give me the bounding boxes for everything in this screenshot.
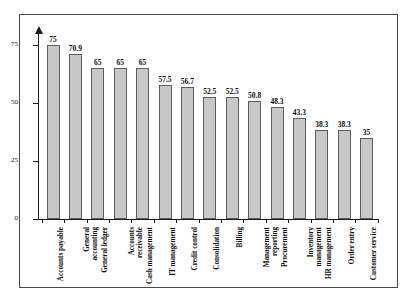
x-axis-tick-mark <box>109 219 110 223</box>
bar <box>47 45 60 219</box>
bar <box>91 68 104 219</box>
bar-value-label: 75 <box>39 35 67 44</box>
bar-value-label: 56.7 <box>173 77 201 86</box>
x-axis-tick-mark <box>378 219 379 223</box>
x-axis-tick-mark <box>87 219 88 223</box>
bar <box>293 118 306 219</box>
y-axis-arrow-icon <box>35 26 43 34</box>
x-axis-tick-mark <box>266 219 267 223</box>
y-axis-tick-label: 25 <box>11 155 18 166</box>
bar <box>338 130 351 219</box>
y-axis-tick-mark <box>33 161 38 162</box>
y-axis-tick: 50 <box>20 103 38 104</box>
y-axis-tick: 0 <box>20 219 38 220</box>
x-axis-tick-mark <box>199 219 200 223</box>
x-axis-tick-mark <box>288 219 289 223</box>
x-axis-category-label: IT management <box>169 227 177 276</box>
bar-value-label: 35 <box>353 128 381 137</box>
bar <box>136 68 149 219</box>
x-axis-category-label: Inventory management <box>307 227 324 267</box>
bar <box>271 107 284 219</box>
x-axis-category-label: Cash management <box>146 227 154 284</box>
x-axis-tick-mark <box>131 219 132 223</box>
x-axis-tick-mark <box>64 219 65 223</box>
x-axis-category-label: Accounts receivable <box>128 227 145 258</box>
bar-value-label: 65 <box>129 58 157 67</box>
bar <box>226 97 239 219</box>
x-axis-category-label: Customer service <box>370 227 378 280</box>
x-axis-tick-mark <box>176 219 177 223</box>
bar-value-label: 48.3 <box>263 97 291 106</box>
bar <box>181 87 194 219</box>
y-axis-line <box>38 33 39 219</box>
chart-frame: 0255075 7570.965656557.556.752.552.550.8… <box>19 14 398 288</box>
y-axis-tick-mark <box>33 219 38 220</box>
y-axis-tick-label: 0 <box>15 213 19 224</box>
x-axis-category-label: HR management <box>325 227 333 279</box>
x-axis-category-label: General ledger <box>101 227 109 273</box>
bar <box>248 101 261 219</box>
y-axis-tick-mark <box>33 45 38 46</box>
x-axis-category-label: Procurement <box>281 227 289 267</box>
y-axis-tick-label: 50 <box>11 97 18 108</box>
y-axis-tick-label: 75 <box>11 39 18 50</box>
x-axis-tick-mark <box>42 219 43 223</box>
bar <box>315 130 328 219</box>
x-axis-tick-mark <box>154 219 155 223</box>
bar <box>203 97 216 219</box>
bar-value-label: 43.3 <box>285 108 313 117</box>
y-axis-tick: 25 <box>20 161 38 162</box>
x-axis-category-label: Management reporting <box>263 227 280 267</box>
x-axis-tick-mark <box>221 219 222 223</box>
x-axis-category-label: Credit control <box>191 227 199 270</box>
x-axis-category-label: Accounts payable <box>57 227 65 281</box>
x-axis-category-label: General accounting <box>83 227 100 261</box>
y-axis-tick-mark <box>33 103 38 104</box>
bar <box>360 138 373 219</box>
y-axis-tick: 75 <box>20 45 38 46</box>
x-axis-tick-mark <box>355 219 356 223</box>
bar <box>114 68 127 219</box>
x-axis-tick-mark <box>333 219 334 223</box>
x-axis-category-label: Billing <box>236 227 244 247</box>
x-axis-line <box>38 219 378 220</box>
bar <box>159 85 172 219</box>
bar-value-label: 70.9 <box>61 44 89 53</box>
x-axis-tick-mark <box>243 219 244 223</box>
x-axis-category-label: Consolidation <box>213 227 221 270</box>
bar <box>69 54 82 219</box>
x-axis-category-label: Order entry <box>348 227 356 264</box>
x-axis-tick-mark <box>311 219 312 223</box>
